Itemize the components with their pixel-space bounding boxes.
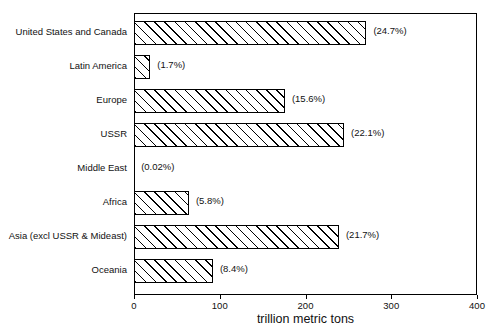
bar-value-label: (22.1%) (351, 127, 384, 138)
bar (134, 225, 339, 249)
bar-value-label: (21.7%) (346, 229, 379, 240)
x-tick-mark (134, 295, 135, 299)
bar (134, 191, 189, 215)
category-label: USSR (101, 128, 127, 139)
category-label: Europe (96, 94, 127, 105)
bar-row: USSR(22.1%) (134, 118, 477, 152)
bar (134, 259, 213, 283)
category-label: Africa (103, 196, 127, 207)
category-label: Middle East (77, 162, 127, 173)
x-axis-title: trillion metric tons (134, 312, 477, 327)
category-label: Asia (excl USSR & Mideast) (9, 230, 127, 241)
bar-value-label: (0.02%) (141, 161, 174, 172)
bar-row: Europe(15.6%) (134, 84, 477, 118)
category-label: Latin America (69, 60, 127, 71)
bar-row: Asia (excl USSR & Mideast)(21.7%) (134, 220, 477, 254)
x-tick-label: 300 (383, 300, 399, 311)
x-tick-label: 200 (298, 300, 314, 311)
x-tick-label: 400 (469, 300, 485, 311)
x-tick-mark (391, 295, 392, 299)
category-label: Oceania (92, 264, 127, 275)
bar-chart: United States and Canada(24.7%)Latin Ame… (0, 0, 494, 335)
x-tick-mark (477, 295, 478, 299)
x-tick-label: 0 (131, 300, 136, 311)
bar (134, 55, 150, 79)
bar (134, 89, 285, 113)
bar-value-label: (15.6%) (292, 93, 325, 104)
bar-rows: United States and Canada(24.7%)Latin Ame… (134, 13, 477, 295)
bar-row: Africa(5.8%) (134, 186, 477, 220)
x-axis-ticks: 0100200300400 (134, 295, 477, 313)
bar-row: Middle East(0.02%) (134, 152, 477, 186)
x-tick-mark (306, 295, 307, 299)
bar-row: Latin America(1.7%) (134, 50, 477, 84)
bar-value-label: (5.8%) (196, 195, 224, 206)
bar-row: Oceania(8.4%) (134, 254, 477, 288)
bar-value-label: (1.7%) (157, 59, 185, 70)
bar-value-label: (24.7%) (373, 25, 406, 36)
x-tick-label: 100 (212, 300, 228, 311)
bar-value-label: (8.4%) (220, 263, 248, 274)
bar-row: United States and Canada(24.7%) (134, 16, 477, 50)
category-label: United States and Canada (16, 26, 127, 37)
bar (134, 123, 344, 147)
x-tick-mark (220, 295, 221, 299)
bar (134, 21, 366, 45)
